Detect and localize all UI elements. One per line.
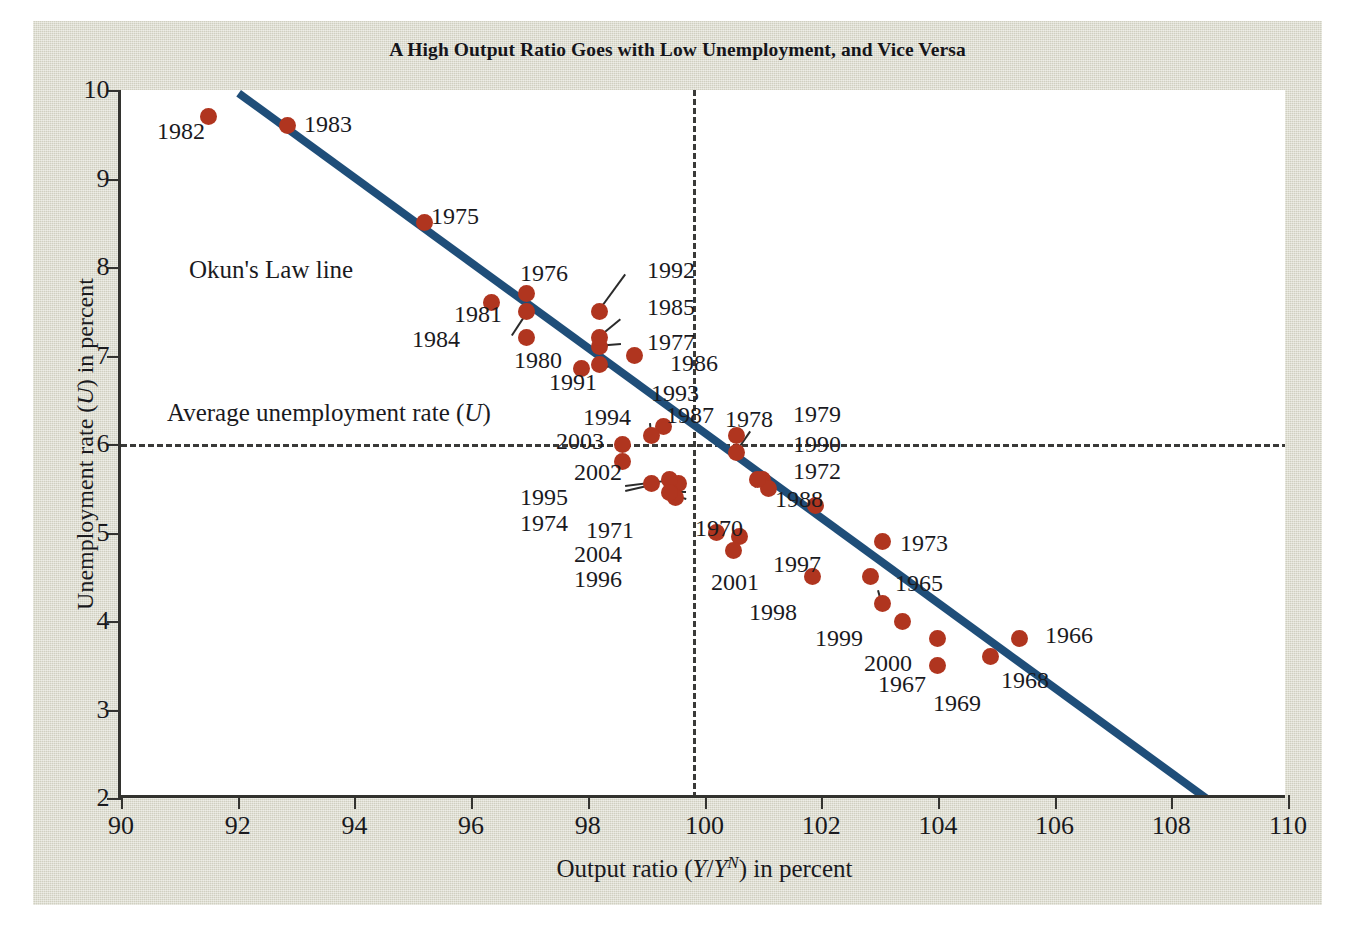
point-label-2000: 2000 (864, 651, 912, 675)
x-tick-label: 92 (203, 813, 273, 839)
scatter-point-1967 (929, 630, 946, 647)
point-label-1990: 1990 (793, 432, 841, 456)
x-axis-label-post: ) in percent (739, 855, 853, 882)
x-tick (471, 795, 473, 809)
point-label-1992: 1992 (647, 258, 695, 282)
y-tick-label: 4 (63, 608, 109, 634)
output-ratio-reference-line (693, 90, 696, 795)
point-label-1970: 1970 (695, 516, 743, 540)
y-tick-label: 8 (63, 254, 109, 280)
point-label-2003: 2003 (556, 429, 604, 453)
scatter-point-1983 (279, 117, 296, 134)
point-label-1968: 1968 (1001, 668, 1049, 692)
point-label-2002: 2002 (574, 460, 622, 484)
chart-title: A High Output Ratio Goes with Low Unempl… (33, 39, 1322, 61)
x-tick (588, 795, 590, 809)
average-unemployment-annotation: Average unemployment rate (U) (167, 400, 491, 425)
x-tick (1171, 795, 1173, 809)
scatter-point-1999 (874, 595, 891, 612)
y-tick-label: 6 (63, 431, 109, 457)
y-tick-label: 2 (63, 785, 109, 811)
plot-area: Unemployment rate (U) in percent Output … (118, 90, 1285, 798)
point-label-1966: 1966 (1045, 623, 1093, 647)
point-label-1982: 1982 (157, 119, 205, 143)
point-label-1994: 1994 (583, 405, 631, 429)
scatter-point-1984 (518, 303, 535, 320)
scatter-point-1968 (982, 648, 999, 665)
okuns-law-annotation: Okun's Law line (189, 257, 353, 282)
y-axis-label-post: ) in percent (72, 278, 98, 387)
scatter-point-2003 (614, 436, 631, 453)
x-tick-label: 102 (786, 813, 856, 839)
scatter-point-1994 (643, 427, 660, 444)
y-tick-label: 10 (63, 77, 109, 103)
point-label-1973: 1973 (900, 531, 948, 555)
x-tick-label: 96 (436, 813, 506, 839)
avg-annotation-pre: Average unemployment rate ( (167, 399, 464, 426)
scatter-point-2000 (894, 613, 911, 630)
scatter-point-1973 (874, 533, 891, 550)
x-axis-label-var1: Y (693, 855, 707, 882)
point-label-1976: 1976 (520, 261, 568, 285)
scatter-point-1969 (929, 657, 946, 674)
x-axis-label-sup: N (727, 853, 738, 872)
x-axis-label: Output ratio (Y/YN) in percent (121, 853, 1288, 883)
point-label-1983: 1983 (304, 112, 352, 136)
y-axis-label-var: U (72, 387, 98, 404)
scatter-point-1966 (1011, 630, 1028, 647)
point-label-1974: 1974 (520, 511, 568, 535)
scatter-point-1965 (862, 568, 879, 585)
x-tick (354, 795, 356, 809)
x-tick-label: 108 (1136, 813, 1206, 839)
scatter-point-1976 (518, 285, 535, 302)
plot-clip: 1965196619671968196919701971197219731974… (121, 90, 1285, 795)
x-tick-label: 100 (670, 813, 740, 839)
point-label-1995: 1995 (520, 485, 568, 509)
x-tick-label: 98 (553, 813, 623, 839)
point-label-1965: 1965 (895, 571, 943, 595)
x-tick (238, 795, 240, 809)
average-unemployment-reference-line (121, 444, 1285, 447)
x-tick (121, 795, 123, 809)
point-label-1991: 1991 (549, 370, 597, 394)
avg-annotation-post: ) (482, 399, 490, 426)
scatter-point-1986 (626, 347, 643, 364)
scatter-point-1992 (591, 303, 608, 320)
point-label-1999: 1999 (815, 626, 863, 650)
scatter-point-1974 (643, 475, 660, 492)
y-tick-label: 5 (63, 520, 109, 546)
point-label-1969: 1969 (933, 691, 981, 715)
x-axis-label-pre: Output ratio ( (556, 855, 692, 882)
okuns-law-trend-line (236, 90, 1212, 795)
scatter-point-1980 (518, 329, 535, 346)
point-label-1978: 1978 (725, 407, 773, 431)
point-label-1996: 1996 (574, 567, 622, 591)
y-tick-label: 9 (63, 166, 109, 192)
y-tick-label: 3 (63, 697, 109, 723)
point-label-1987: 1987 (666, 403, 714, 427)
x-tick (938, 795, 940, 809)
point-label-1971: 1971 (586, 518, 634, 542)
point-label-2001: 2001 (711, 570, 759, 594)
x-tick-label: 104 (903, 813, 973, 839)
x-tick (1055, 795, 1057, 809)
x-tick-label: 110 (1253, 813, 1323, 839)
x-tick-label: 106 (1020, 813, 1090, 839)
x-tick-label: 90 (86, 813, 156, 839)
point-label-1997: 1997 (773, 552, 821, 576)
y-tick-label: 7 (63, 343, 109, 369)
point-label-1984: 1984 (412, 327, 460, 351)
point-label-1972: 1972 (793, 459, 841, 483)
point-label-1998: 1998 (749, 600, 797, 624)
point-label-1988: 1988 (775, 487, 823, 511)
x-tick (705, 795, 707, 809)
point-label-1986: 1986 (670, 351, 718, 375)
x-axis-label-var2: Y (713, 855, 727, 882)
scatter-point-2001 (725, 542, 742, 559)
x-tick (1288, 795, 1290, 809)
x-tick-label: 94 (319, 813, 389, 839)
point-label-1993: 1993 (651, 381, 699, 405)
point-label-1975: 1975 (431, 204, 479, 228)
figure-panel: A High Output Ratio Goes with Low Unempl… (33, 21, 1322, 905)
point-label-1979: 1979 (793, 402, 841, 426)
